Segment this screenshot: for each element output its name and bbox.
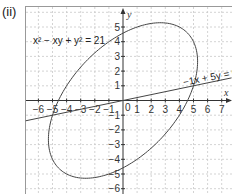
x-tick-label: 3 <box>163 104 169 115</box>
y-tick-label: −3 <box>109 139 121 150</box>
x-tick-label: 6 <box>205 104 211 115</box>
y-tick-label: 2 <box>114 66 120 77</box>
x-tick-label: 7 <box>219 104 225 115</box>
y-tick-label: 5 <box>114 22 120 33</box>
y-tick-label: −6 <box>109 183 121 194</box>
graph: −6−5−4−3−2−1123456754321−1−2−3−4−5−6 x² … <box>0 0 232 194</box>
y-axis-label: y <box>126 9 132 20</box>
y-tick-label: 1 <box>114 80 120 91</box>
y-tick-label: −4 <box>109 154 121 165</box>
y-tick-label: −1 <box>109 110 121 121</box>
x-tick-label: −5 <box>47 104 59 115</box>
x-tick-label: −6 <box>33 104 45 115</box>
x-tick-label: 2 <box>148 104 154 115</box>
y-tick-label: 3 <box>114 51 120 62</box>
x-tick-label: 4 <box>177 104 183 115</box>
ellipse-equation: x² − xy + y² = 21 <box>33 35 105 46</box>
x-tick-label: 5 <box>191 104 197 115</box>
x-tick-label: 1 <box>134 104 140 115</box>
x-axis-label: x <box>223 87 229 98</box>
y-tick-label: −2 <box>109 124 121 135</box>
origin-label: 0 <box>125 102 131 113</box>
